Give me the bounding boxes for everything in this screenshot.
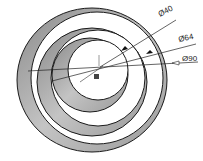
dimension-label-d40: Ø40 <box>157 3 175 18</box>
arrow-icon <box>172 61 179 65</box>
cad-drawing: Ø40 Ø64 Ø90 <box>0 0 203 161</box>
dimension-label-d64: Ø64 <box>178 32 195 44</box>
center-point-marker <box>94 74 99 79</box>
dimension-label-d90: Ø90 <box>182 54 198 63</box>
